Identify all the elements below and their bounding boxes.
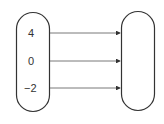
domain-element-3: −2 bbox=[24, 82, 37, 94]
codomain-oval bbox=[122, 12, 155, 111]
mapping-diagram bbox=[0, 0, 164, 124]
domain-element-2: 0 bbox=[28, 55, 34, 67]
domain-element-1: 4 bbox=[28, 27, 34, 39]
